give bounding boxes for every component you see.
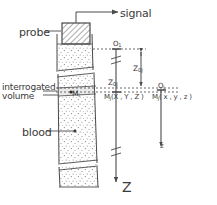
vessel-body xyxy=(56,34,99,187)
probe-label: probe xyxy=(19,27,50,39)
probe-transducer xyxy=(62,23,90,44)
axis-label-z-local: z xyxy=(160,143,163,150)
figure-canvas: probe signal interrogated volume blood Z… xyxy=(0,0,217,205)
signal-label: signal xyxy=(120,8,151,20)
point-label-global: Mj(X , Y , Z ) xyxy=(104,94,144,101)
distance-mid-subscript: 0j xyxy=(138,67,143,73)
distance-label-middle: Z0j xyxy=(133,65,142,74)
point-Mi-subscript: i xyxy=(78,92,79,98)
distance-left-subscript: 0j xyxy=(113,81,118,87)
origin-lower-subscript: j xyxy=(163,84,164,90)
point-local-coordinates: ( x , y , z ) xyxy=(159,93,192,101)
point-label-local: Mj( x , y , z ) xyxy=(152,94,192,101)
origin-label-lower: Oj xyxy=(158,83,165,90)
signal-arrow xyxy=(76,12,118,23)
interrogated-volume-label-line2: volume xyxy=(2,92,34,101)
main-Z-axis xyxy=(111,49,121,182)
point-label-Mi: Mi xyxy=(72,90,80,99)
origin-upper-subscript: 1 xyxy=(118,42,121,48)
axis-label-Z: Z xyxy=(122,180,131,195)
distance-label-left: Z0j xyxy=(108,79,117,88)
origin-label-upper: O1 xyxy=(113,41,121,48)
blood-label: blood xyxy=(22,127,51,139)
point-global-coordinates: (X , Y , Z ) xyxy=(111,93,144,101)
